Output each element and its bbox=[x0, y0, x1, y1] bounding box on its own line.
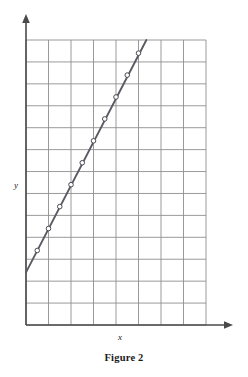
data-point-marker bbox=[114, 95, 119, 100]
data-point-marker bbox=[80, 160, 85, 165]
data-point-marker bbox=[136, 51, 141, 56]
data-point-marker bbox=[102, 117, 107, 122]
y-axis-label: y bbox=[13, 180, 18, 190]
y-axis-arrow-icon bbox=[22, 14, 30, 23]
data-point-marker bbox=[125, 73, 130, 78]
data-point-marker bbox=[57, 204, 62, 209]
data-point-marker bbox=[69, 182, 74, 187]
data-point-marker bbox=[35, 248, 40, 253]
data-point-marker bbox=[46, 226, 51, 231]
figure-caption: Figure 2 bbox=[0, 352, 248, 363]
data-point-marker bbox=[91, 139, 96, 144]
graph-plot: x y bbox=[0, 0, 248, 377]
x-axis-label: x bbox=[117, 332, 122, 342]
figure-container: x y Figure 2 bbox=[0, 0, 248, 377]
grid-vertical-lines bbox=[26, 40, 206, 325]
x-axis-arrow-icon bbox=[224, 321, 233, 329]
